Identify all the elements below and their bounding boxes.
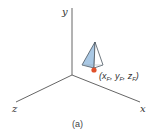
z-axis-label: z bbox=[11, 103, 18, 114]
point-coordinates-label: (xF, yF, zF) bbox=[99, 71, 139, 82]
z-axis bbox=[16, 75, 72, 102]
y-axis-label: y bbox=[61, 6, 68, 17]
focal-point-marker bbox=[91, 67, 96, 72]
x-axis-label: x bbox=[140, 103, 146, 114]
figure-caption: (a) bbox=[72, 119, 83, 129]
coordinate-diagram: y z x (xF, yF, zF) (a) bbox=[0, 0, 158, 137]
pyramid-icon bbox=[82, 42, 103, 68]
